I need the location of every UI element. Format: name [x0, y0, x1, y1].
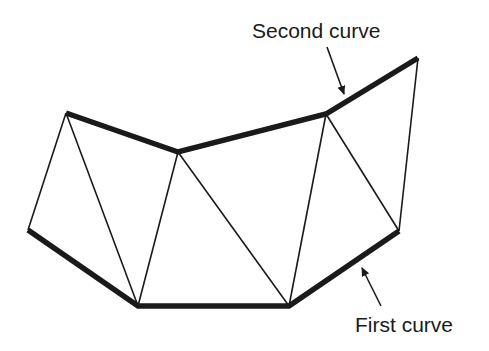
- triangulated-strip-diagram: [0, 0, 489, 351]
- first-curve: [28, 230, 399, 306]
- triangulation-edge: [326, 114, 399, 231]
- triangulation-edge: [399, 58, 418, 231]
- triangulation-edge: [178, 152, 289, 306]
- second-curve-arrow-icon: [327, 47, 344, 94]
- second-curve-label: Second curve: [252, 20, 380, 41]
- triangulation-edge: [138, 152, 178, 306]
- triangulation-edge: [28, 113, 66, 230]
- second-curve: [66, 58, 418, 152]
- triangulation-edge: [66, 113, 138, 306]
- first-curve-label: First curve: [355, 314, 453, 335]
- first-curve-arrow-icon: [362, 268, 381, 306]
- triangulation-edge: [289, 114, 326, 306]
